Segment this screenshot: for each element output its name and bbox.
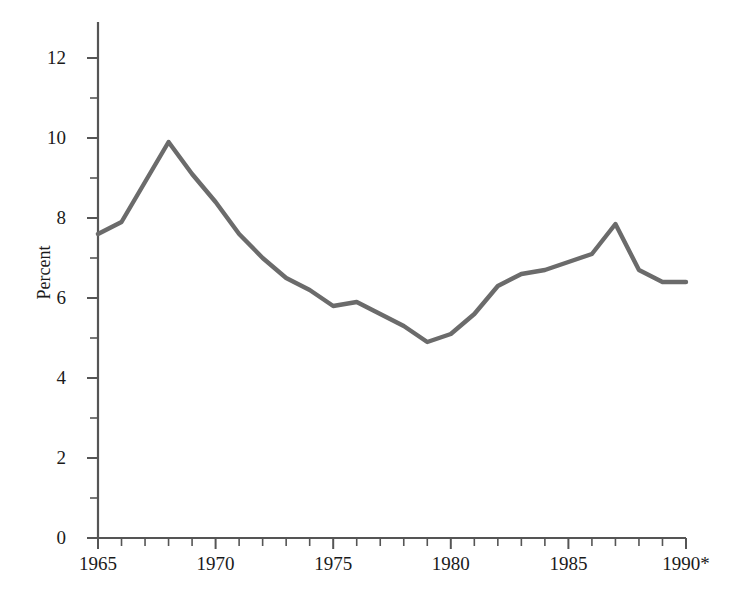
y-tick-label: 0 [26, 528, 66, 547]
x-tick-label: 1975 [293, 554, 373, 573]
line-chart: Percent 024681012 1965197019751980198519… [0, 0, 732, 601]
x-tick-label: 1965 [58, 554, 138, 573]
y-tick-label: 10 [26, 128, 66, 147]
data-series-line [98, 142, 686, 342]
x-tick-label: 1990* [646, 554, 726, 573]
y-tick-label: 6 [26, 288, 66, 307]
y-tick-label: 2 [26, 448, 66, 467]
chart-plot-area [0, 0, 732, 601]
x-tick-label: 1970 [176, 554, 256, 573]
x-tick-label: 1980 [411, 554, 491, 573]
y-tick-label: 12 [26, 48, 66, 67]
x-tick-label: 1985 [528, 554, 608, 573]
y-tick-label: 8 [26, 208, 66, 227]
x-axis-ticks [98, 538, 686, 549]
y-axis-ticks [87, 58, 98, 538]
y-tick-label: 4 [26, 368, 66, 387]
